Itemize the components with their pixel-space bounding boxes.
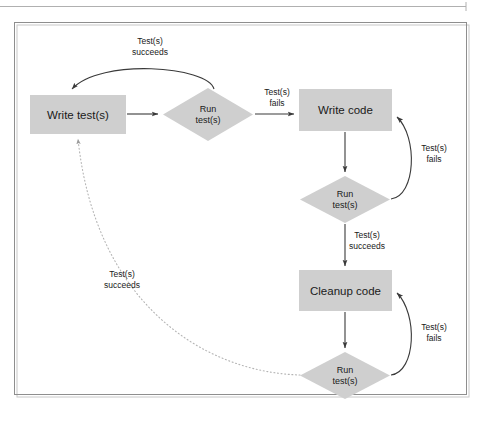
diagram-frame [15,23,467,395]
node-write-code[interactable]: Write code [299,89,392,131]
node-cleanup-code-label: Cleanup code [310,285,381,297]
edge-run-tests-3-to-write-tests-dotted [78,139,300,375]
edge-label-mid-right-line2: fails [269,98,284,108]
flowchart-canvas: Write test(s) Run test(s) Write code Run… [0,0,479,422]
edge-run-tests-2-to-write-code [391,117,411,199]
node-write-tests[interactable]: Write test(s) [30,95,126,134]
node-run-tests-1-label-line1: Run [200,104,217,114]
diagram-frame-shadow [17,25,469,397]
edge-label-to-cleanup: Test(s) succeeds [349,230,385,251]
edge-label-cleanup-loop: Test(s) fails [421,322,447,343]
edge-label-cleanup-loop-line2: fails [426,333,441,343]
edge-label-top-line1: Test(s) [137,36,163,46]
node-run-tests-2-label-line2: test(s) [332,200,357,210]
edge-label-code-loop-line2: fails [426,154,441,164]
edge-label-to-cleanup-line1: Test(s) [354,230,380,240]
node-write-code-label: Write code [318,104,373,116]
node-run-tests-2-label-line1: Run [337,189,354,199]
edge-label-code-loop-line1: Test(s) [421,143,447,153]
node-run-tests-1[interactable]: Run test(s) [163,88,253,141]
node-run-tests-2[interactable]: Run test(s) [300,176,390,223]
diagram-page: Write test(s) Run test(s) Write code Run… [0,0,479,422]
edge-run-tests-3-to-cleanup-code [391,293,411,375]
edge-label-to-cleanup-line2: succeeds [349,241,385,251]
node-run-tests-3[interactable]: Run test(s) [300,352,390,399]
edge-label-bottom-left: Test(s) succeeds [104,269,140,290]
node-cleanup-code[interactable]: Cleanup code [299,270,392,311]
node-write-tests-label: Write test(s) [47,109,109,121]
node-run-tests-3-label-line2: test(s) [332,376,357,386]
edge-label-cleanup-loop-line1: Test(s) [421,322,447,332]
edge-label-bottom-left-line2: succeeds [104,280,140,290]
node-run-tests-3-label-line1: Run [337,365,354,375]
edge-label-top: Test(s) succeeds [132,36,168,57]
edge-label-mid-right-line1: Test(s) [264,87,290,97]
node-run-tests-1-label-line2: test(s) [195,115,220,125]
edge-label-code-loop: Test(s) fails [421,143,447,164]
edge-run-tests-1-to-write-tests [72,69,214,89]
edge-label-mid-right: Test(s) fails [264,87,290,108]
edge-label-bottom-left-line1: Test(s) [109,269,135,279]
edge-label-top-line2: succeeds [132,47,168,57]
